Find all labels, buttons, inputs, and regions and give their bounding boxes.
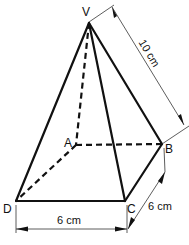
arrowhead-icon xyxy=(178,114,184,125)
arrowhead-icon xyxy=(16,227,28,232)
arrowhead-icon xyxy=(115,227,127,232)
dimension-label-base-side: 6 cm xyxy=(148,200,172,212)
edge-vd xyxy=(16,23,89,201)
arrowhead-icon xyxy=(112,7,117,18)
arrowhead-icon xyxy=(128,217,135,229)
edge-ad-hidden xyxy=(16,145,76,201)
edge-cb xyxy=(125,144,162,201)
dimension-line-10cm xyxy=(112,7,184,125)
dimension-label-base-front: 6 cm xyxy=(57,214,81,226)
vertex-label-d: D xyxy=(3,202,12,216)
vertex-label-a: A xyxy=(64,136,72,150)
arrowhead-icon xyxy=(158,172,165,184)
vertex-label-v: V xyxy=(82,5,90,19)
pyramid-diagram: 10 cm 6 cm 6 cm V A B C D xyxy=(0,0,189,245)
edge-vc xyxy=(89,23,125,201)
edge-ab-hidden xyxy=(76,144,162,145)
extension-line-v xyxy=(89,5,114,22)
vertex-label-b: B xyxy=(165,142,173,156)
vertex-label-c: C xyxy=(127,202,136,216)
edge-vb xyxy=(89,23,162,144)
